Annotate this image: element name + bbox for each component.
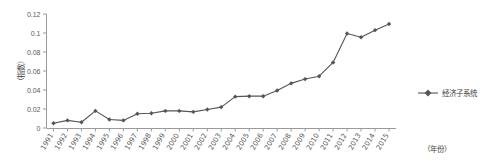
chart-canvas: 00.020.040.060.080.10.12 199119921993199… — [0, 0, 504, 167]
legend-item-label: 经济子系统 — [442, 88, 478, 98]
x-axis-title: （年份） — [423, 144, 451, 154]
y-axis-tick-label: 0.08 — [27, 49, 41, 56]
y-axis-tick-label: 0.06 — [27, 68, 41, 75]
y-axis-tick-label: 0.12 — [27, 11, 41, 18]
line-chart: 00.020.040.060.080.10.12 199119921993199… — [0, 0, 504, 167]
y-axis-tick-label: 0.1 — [31, 30, 41, 37]
y-axis-tick-label: 0 — [37, 125, 41, 132]
y-axis-title: （指数） — [16, 57, 26, 85]
y-axis-tick-label: 0.04 — [27, 87, 41, 94]
y-axis-tick-label: 0.02 — [27, 106, 41, 113]
